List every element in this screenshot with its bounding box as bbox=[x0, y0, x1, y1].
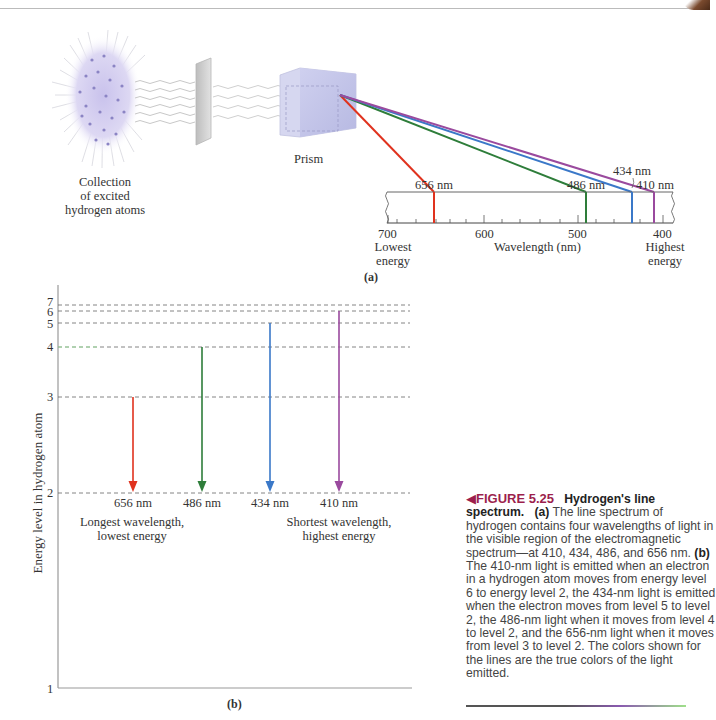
figure-number: FIGURE 5.25 bbox=[476, 491, 554, 506]
level-label-5: 5 bbox=[47, 317, 53, 331]
emitted-light-waves bbox=[135, 81, 195, 124]
caption-rule bbox=[466, 705, 686, 707]
lowest-energy-note: Lowest energy bbox=[368, 240, 418, 268]
energy-axis-title: Energy level in hydrogen atom bbox=[31, 393, 45, 593]
transition-arrow-486nm bbox=[198, 347, 207, 492]
level-label-7: 7 bbox=[47, 295, 53, 309]
tick-label-500: 500 bbox=[568, 227, 587, 241]
shortest-wavelength-note: Shortest wavelength, highest energy bbox=[278, 515, 400, 543]
arrow-label-410nm: 410 nm bbox=[320, 496, 358, 510]
transition-arrow-410nm bbox=[335, 311, 344, 492]
source-label: Collection of excited hydrogen atoms bbox=[55, 175, 155, 217]
level-label-2: 2 bbox=[47, 486, 53, 500]
caption-part-a-label: (a) bbox=[534, 505, 549, 519]
transition-arrow-434nm bbox=[266, 323, 275, 492]
tick-label-600: 600 bbox=[475, 227, 494, 241]
energy-level-diagram bbox=[58, 285, 412, 688]
arrow-label-486nm: 486 nm bbox=[183, 496, 221, 510]
collimated-light-waves bbox=[213, 86, 283, 119]
prism-label: Prism bbox=[294, 152, 323, 166]
longest-wavelength-note: Longest wavelength, lowest energy bbox=[72, 515, 192, 543]
line-label-656nm: 656 nm bbox=[415, 178, 453, 192]
arrow-label-434nm: 434 nm bbox=[251, 496, 289, 510]
line-label-486nm: 486 nm bbox=[567, 178, 605, 192]
highest-energy-note: Highest energy bbox=[640, 240, 690, 268]
panel-b-label: (b) bbox=[227, 697, 242, 711]
dispersed-rays bbox=[340, 95, 654, 192]
slit-plate bbox=[196, 58, 211, 145]
panel-a-label: (a) bbox=[364, 270, 378, 284]
wavelength-axis-title: Wavelength (nm) bbox=[494, 240, 581, 254]
level-label-4: 4 bbox=[47, 340, 53, 354]
figure-caption: ◀FIGURE 5.25 Hydrogen's line spectrum. (… bbox=[466, 492, 716, 681]
prism bbox=[280, 68, 356, 137]
ray-486nm bbox=[340, 95, 586, 192]
line-label-410nm: 410 nm bbox=[636, 178, 674, 192]
figure-marker-icon: ◀ bbox=[466, 491, 476, 506]
level-label-3: 3 bbox=[47, 390, 53, 404]
tick-label-700: 700 bbox=[378, 227, 397, 241]
caption-part-b-label: (b) bbox=[694, 546, 710, 560]
hydrogen-atom-cloud bbox=[52, 30, 145, 168]
tick-label-400: 400 bbox=[653, 227, 672, 241]
caption-part-b-text: The 410-nm light is emitted when an elec… bbox=[466, 559, 715, 680]
line-label-434nm: 434 nm bbox=[613, 164, 651, 178]
level-label-1: 1 bbox=[47, 682, 53, 696]
transition-arrow-656nm bbox=[129, 397, 138, 492]
arrow-label-656nm: 656 nm bbox=[114, 496, 152, 510]
